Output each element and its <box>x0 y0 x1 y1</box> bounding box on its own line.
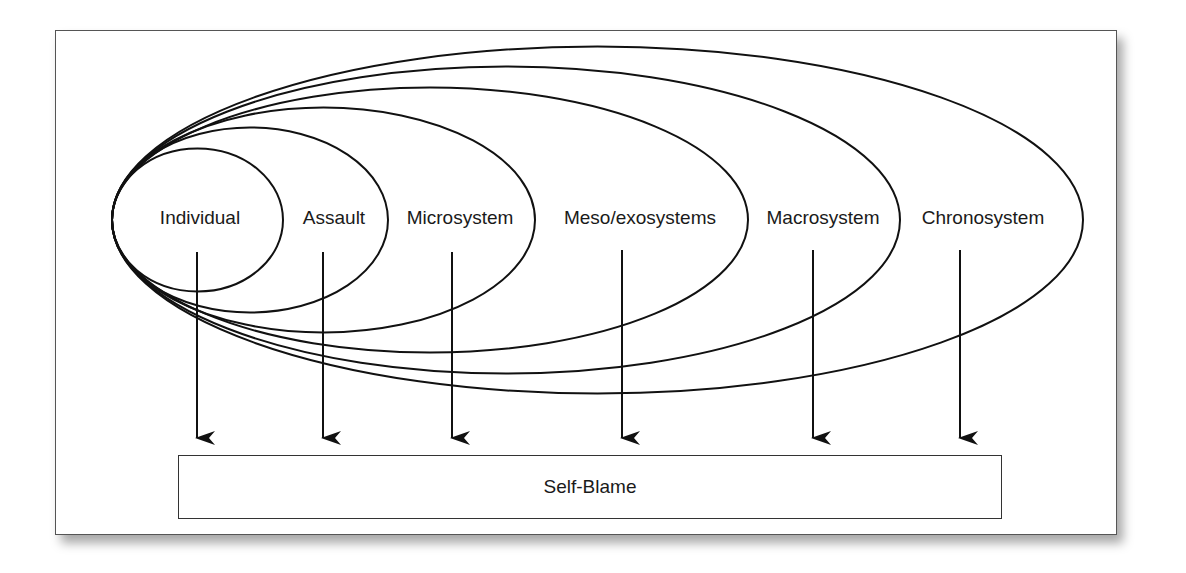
microsystem-label: Microsystem <box>407 207 514 228</box>
self-blame-label: Self-Blame <box>544 476 637 498</box>
self-blame-box: Self-Blame <box>178 455 1002 519</box>
macrosystem-label: Macrosystem <box>767 207 880 228</box>
assault-label: Assault <box>303 207 366 228</box>
meso-exosystems-label: Meso/exosystems <box>564 207 716 228</box>
individual-label: Individual <box>160 207 240 228</box>
chronosystem-label: Chronosystem <box>922 207 1045 228</box>
